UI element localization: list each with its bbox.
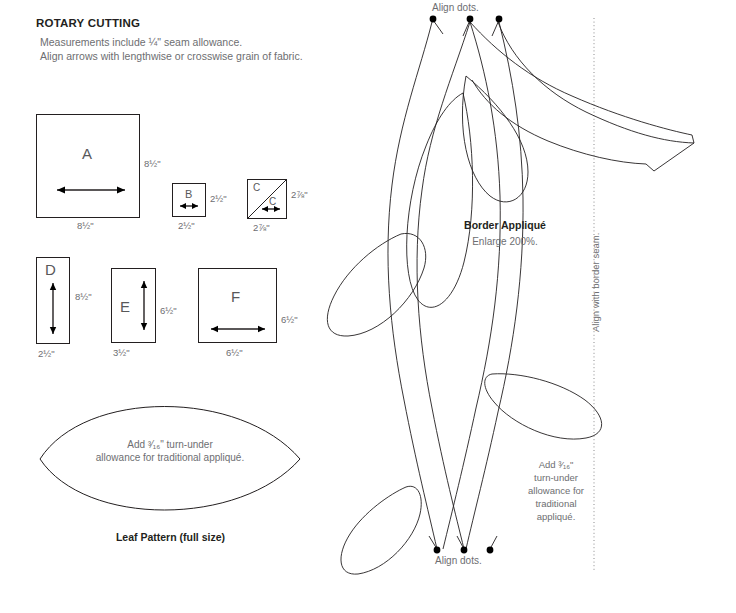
shape-f-width-label: 6½" — [226, 347, 243, 358]
branch-tip-cut-lower — [646, 164, 654, 171]
applique-turn-under-line-5: appliqué. — [511, 511, 601, 523]
shape-a-letter: A — [82, 145, 92, 162]
shape-c-letter-lower: C — [269, 196, 276, 207]
applique-turn-under-line-2: turn-under — [511, 472, 601, 484]
border-applique-subtitle: Enlarge 200%. — [440, 236, 570, 247]
shape-a-grain-arrow — [57, 187, 125, 194]
leaf-lower-right — [485, 374, 602, 439]
align-dot-top-1 — [430, 16, 437, 23]
shape-c-height-label: 2⅞" — [291, 189, 308, 200]
pattern-sheet: ROTARY CUTTING Measurements include ¼" s… — [0, 0, 736, 613]
shape-a-height-label: 8½" — [144, 158, 161, 169]
align-dot-top-2 — [467, 16, 474, 23]
shape-a-outline — [37, 115, 140, 218]
align-dot-bottom-1 — [434, 547, 441, 554]
leaf-lower-left — [341, 486, 421, 574]
align-dots-bottom-label: Align dots. — [435, 555, 482, 566]
shape-e-width-label: 3½" — [113, 347, 130, 358]
shape-f-letter: F — [231, 288, 240, 305]
leaf-pattern-caption: Leaf Pattern (full size) — [83, 531, 258, 543]
shape-b-letter: B — [185, 188, 192, 200]
border-seam-label: Align with border seam. — [590, 233, 601, 332]
shape-e-outline — [112, 269, 156, 343]
shape-f-outline — [199, 269, 277, 343]
cutting-diagram-svg — [0, 0, 736, 613]
branch-lower-edge — [498, 22, 694, 143]
align-dot-bottom-2 — [461, 547, 468, 554]
align-dot-bottom-3 — [487, 547, 494, 554]
vine-right-edge-a — [443, 22, 500, 549]
branch-lower-return — [472, 80, 646, 164]
leaf-pattern-note-line2: allowance for traditional appliqué. — [70, 452, 270, 465]
applique-turn-under-line-4: traditional — [511, 498, 601, 510]
align-dot-top-3 — [496, 16, 503, 23]
leaf-pattern-note-line1: Add ³⁄₁₆" turn-under — [85, 439, 255, 452]
shape-e-height-label: 6½" — [160, 305, 177, 316]
shape-c-width-label: 2⅞" — [253, 222, 270, 233]
border-applique-title: Border Appliqué — [440, 219, 570, 231]
shape-a-width-label: 8½" — [77, 220, 94, 231]
shape-d-width-label: 2½" — [38, 348, 55, 359]
shape-d-grain-arrow — [50, 283, 56, 334]
shape-b-width-label: 2½" — [178, 220, 195, 231]
applique-turn-under-line-3: allowance for — [511, 485, 601, 497]
applique-turn-under-line-1: Add ³⁄₁₆" — [511, 459, 601, 471]
vine-left-edge-a — [388, 22, 437, 549]
shape-c-letter-upper: C — [253, 182, 260, 193]
shape-e-letter: E — [120, 298, 130, 315]
shape-d-letter: D — [45, 261, 56, 278]
shape-e-grain-arrow — [141, 281, 147, 330]
shape-f-grain-arrow — [211, 326, 265, 332]
shape-f-height-label: 6½" — [281, 314, 298, 325]
shape-b-height-label: 2½" — [210, 193, 227, 204]
align-dots-top-label: Align dots. — [432, 2, 479, 13]
shape-d-height-label: 8½" — [75, 291, 92, 302]
shape-b-grain-arrow — [180, 203, 198, 209]
branch-tip-cut-upper — [654, 143, 694, 171]
